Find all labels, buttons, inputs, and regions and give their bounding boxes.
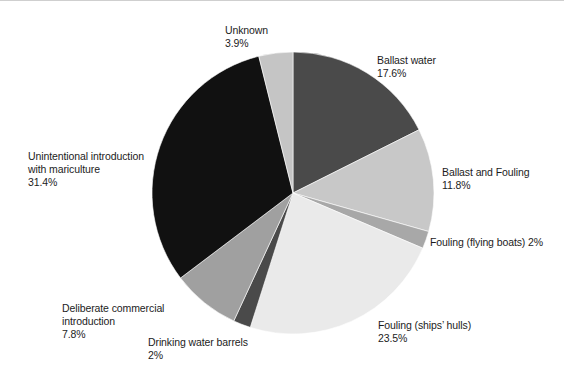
pie-label-unintentional-mariculture: Unintentional introduction with maricult…	[28, 137, 144, 202]
pie-label-unintentional-mariculture-value: 31.4%	[28, 176, 144, 189]
pie-label-deliberate-commercial-introduction: Deliberate commercial introduction 7.8%	[62, 289, 164, 354]
pie-label-unintentional-mariculture-name: Unintentional introduction with maricult…	[28, 150, 144, 175]
pie-label-unknown-value: 3.9%	[225, 37, 268, 50]
pie-label-deliberate-commercial-introduction-value: 7.8%	[62, 328, 164, 341]
pie-label-unknown: Unknown 3.9%	[225, 11, 268, 63]
pie-label-unknown-name: Unknown	[225, 24, 268, 36]
pie-slice-group	[152, 52, 434, 334]
pie-label-fouling-ships-hulls-name: Fouling (ships’ hulls)	[378, 319, 471, 331]
pie-label-ballast-water-name: Ballast water	[377, 54, 436, 66]
pie-label-ballast-water: Ballast water 17.6%	[377, 41, 436, 93]
pie-label-fouling-ships-hulls: Fouling (ships’ hulls) 23.5%	[378, 306, 471, 358]
pie-label-ballast-water-value: 17.6%	[377, 67, 436, 80]
pie-label-fouling-flying-boats: Fouling (flying boats) 2%	[430, 223, 543, 249]
pie-chart-figure: Unknown 3.9% Ballast water 17.6% Ballast…	[0, 0, 564, 365]
pie-label-ballast-and-fouling-name: Ballast and Fouling	[442, 166, 529, 178]
pie-label-deliberate-commercial-introduction-name: Deliberate commercial introduction	[62, 302, 164, 327]
pie-label-ballast-and-fouling: Ballast and Fouling 11.8%	[442, 153, 529, 205]
pie-label-ballast-and-fouling-value: 11.8%	[442, 179, 529, 192]
pie-label-fouling-ships-hulls-value: 23.5%	[378, 332, 471, 345]
pie-label-fouling-flying-boats-name: Fouling (flying boats) 2%	[430, 236, 543, 248]
